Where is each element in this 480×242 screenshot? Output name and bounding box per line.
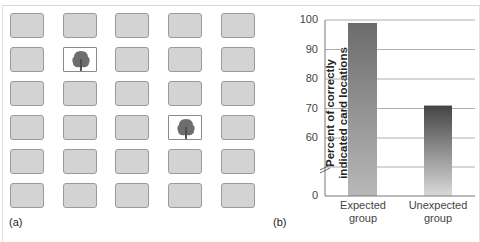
bar-unexpected-group (424, 106, 452, 196)
bar-expected-group (348, 23, 377, 196)
x-label-unexpected: Unexpected group (403, 199, 473, 225)
y-tick-90: 90 (296, 43, 318, 55)
x-label-expected: Expected group (328, 199, 398, 225)
x-label-unexpected-line-1: Unexpected (403, 199, 473, 212)
x-label-expected-line-2: group (328, 212, 398, 225)
y-tick-80: 80 (296, 72, 318, 84)
panel-b-label: (b) (273, 216, 286, 228)
bars (348, 23, 452, 196)
y-tick-0: 0 (296, 189, 318, 201)
y-tick-100: 100 (296, 13, 318, 25)
x-label-expected-line-1: Expected (328, 199, 398, 212)
y-tick-60: 60 (296, 131, 318, 143)
gridlines (325, 20, 475, 167)
x-label-unexpected-line-2: group (403, 212, 473, 225)
y-tick-70: 70 (296, 102, 318, 114)
